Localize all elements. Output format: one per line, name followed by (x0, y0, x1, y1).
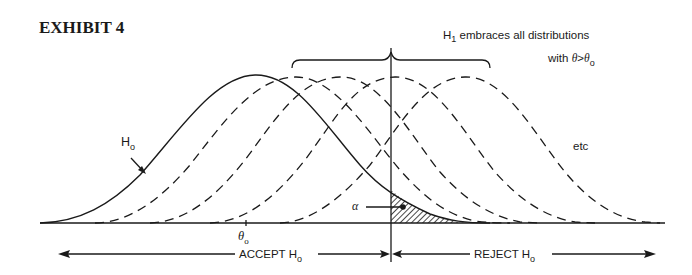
reject-h0-label: REJECT Ho (474, 248, 535, 264)
h1-distribution-curve-2 (150, 77, 540, 223)
hypothesis-test-diagram: EXHIBIT 4 H1 embraces all distributions … (0, 0, 692, 275)
accept-h0-label: ACCEPT Ho (239, 248, 302, 264)
etc-label: etc (573, 140, 589, 152)
h1-distribution-curve-4 (280, 77, 660, 223)
h1-label-line2: with θ>θo (547, 52, 595, 68)
theta0-label: θo (238, 229, 249, 246)
exhibit-title: EXHIBIT 4 (39, 18, 125, 37)
h1-distribution-curve-1 (95, 77, 510, 223)
h1-label-line1: H1 embraces all distributions (443, 29, 590, 44)
alpha-label: α (352, 199, 359, 213)
alpha-pointer-dot-icon (400, 204, 406, 210)
h0-label: Ho (121, 135, 135, 152)
